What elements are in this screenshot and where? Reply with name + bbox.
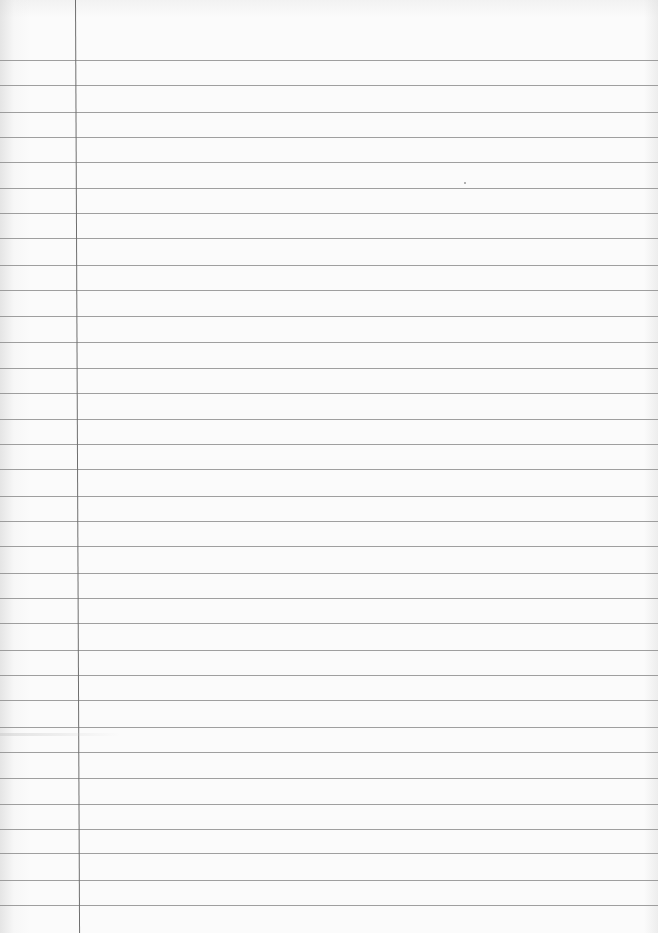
paper-crease (0, 733, 120, 736)
rule-line (0, 265, 658, 266)
rule-line (0, 444, 658, 445)
rule-line (0, 60, 658, 61)
rule-line (0, 162, 658, 163)
rule-line (0, 469, 658, 470)
rule-line (0, 598, 658, 599)
rule-line (0, 573, 658, 574)
rule-line (0, 727, 658, 728)
ruled-paper-sheet (0, 0, 658, 933)
rule-line (0, 905, 658, 906)
rule-line (0, 778, 658, 779)
rule-line (0, 342, 658, 343)
rule-line (0, 188, 658, 189)
rule-line (0, 880, 658, 881)
rule-line (0, 213, 658, 214)
rule-line (0, 290, 658, 291)
rule-line (0, 368, 658, 369)
rule-line (0, 419, 658, 420)
rule-line (0, 496, 658, 497)
paper-speck (464, 182, 466, 184)
rule-line (0, 623, 658, 624)
rule-line (0, 521, 658, 522)
rule-line (0, 316, 658, 317)
rule-line (0, 829, 658, 830)
rule-line (0, 238, 658, 239)
rule-line (0, 650, 658, 651)
rule-line (0, 546, 658, 547)
rule-line (0, 752, 658, 753)
rule-line (0, 804, 658, 805)
rule-line (0, 85, 658, 86)
rule-line (0, 853, 658, 854)
rule-line (0, 393, 658, 394)
rule-line (0, 675, 658, 676)
rule-line (0, 700, 658, 701)
rule-line (0, 112, 658, 113)
rule-line (0, 137, 658, 138)
margin-line (75, 0, 80, 933)
